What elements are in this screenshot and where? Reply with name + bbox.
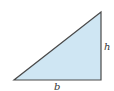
- triangle-diagram: h b: [0, 0, 114, 91]
- height-label: h: [104, 41, 110, 52]
- right-triangle: [14, 12, 101, 80]
- base-label: b: [54, 81, 60, 91]
